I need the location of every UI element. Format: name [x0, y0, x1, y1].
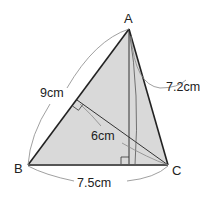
vertex-label-c: C — [172, 163, 181, 178]
vertex-label-a: A — [124, 11, 133, 26]
vertex-label-b: B — [14, 161, 23, 176]
arc-bc-right — [127, 166, 168, 181]
measure-altitude: 6cm — [91, 129, 115, 143]
measure-ab: 9cm — [40, 86, 64, 100]
measure-ac: 7.2cm — [166, 80, 200, 94]
arc-bc-left — [28, 166, 74, 181]
measure-bc: 7.5cm — [77, 176, 111, 190]
triangle-diagram: A B C 9cm 7.2cm 7.5cm 6cm — [0, 0, 224, 201]
